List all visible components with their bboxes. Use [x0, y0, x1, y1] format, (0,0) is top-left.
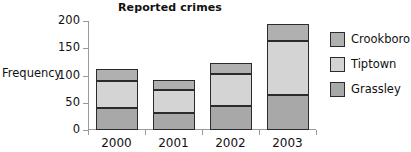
bar-segment-crookboro [96, 69, 138, 81]
x-axis-tick-label: 2001 [151, 136, 197, 150]
bar-segment-tiptown [96, 81, 138, 108]
x-axis-tick-label: 2003 [265, 136, 311, 150]
x-axis-tick [88, 130, 89, 135]
bar-stack [96, 21, 138, 130]
bar-segment-tiptown [210, 74, 252, 106]
y-axis-tick-label: 200 [50, 15, 80, 27]
x-axis-tick [259, 130, 260, 135]
bar-segment-crookboro [267, 24, 309, 41]
y-axis-tick-label: 50 [50, 97, 80, 109]
legend-item[interactable]: Crookboro [330, 30, 411, 50]
bar-segment-crookboro [210, 63, 252, 74]
plot-area [88, 21, 316, 130]
bar-segment-crookboro [153, 80, 195, 90]
legend-swatch-icon [330, 32, 345, 47]
x-axis-tick [316, 130, 317, 135]
legend-swatch-icon [330, 82, 345, 97]
y-axis-tick-label: 150 [50, 42, 80, 54]
bar-stack [153, 21, 195, 130]
bar-segment-tiptown [267, 41, 309, 95]
chart-legend: CrookboroTiptownGrassley [330, 30, 411, 105]
y-axis-tick-label: 100 [50, 70, 80, 82]
y-axis-tick-label-wrap: 200 [48, 15, 80, 27]
legend-item[interactable]: Tiptown [330, 55, 411, 75]
bar-segment-grassley [153, 113, 195, 130]
legend-item-label: Tiptown [351, 58, 396, 71]
y-axis-tick-label-wrap: 0 [48, 124, 80, 136]
y-axis-tick-label-wrap: 50 [48, 97, 80, 109]
bar-stack [267, 21, 309, 130]
x-axis-tick-label: 2002 [208, 136, 254, 150]
bar-segment-tiptown [153, 90, 195, 112]
x-axis-tick [145, 130, 146, 135]
legend-item-label: Crookboro [351, 33, 410, 46]
x-axis-tick-label: 2000 [94, 136, 140, 150]
legend-swatch-icon [330, 57, 345, 72]
chart-title: Reported crimes [0, 1, 340, 14]
stacked-bar-chart: Reported crimes Frequency 050100150200 2… [0, 0, 411, 152]
y-axis-tick-label-wrap: 100 [48, 70, 80, 82]
y-axis-tick-label: 0 [50, 124, 80, 136]
legend-item[interactable]: Grassley [330, 80, 411, 100]
legend-item-label: Grassley [351, 83, 401, 96]
y-axis-tick-label-wrap: 150 [48, 42, 80, 54]
bar-segment-grassley [210, 106, 252, 130]
x-axis-tick [202, 130, 203, 135]
bar-segment-grassley [267, 95, 309, 130]
bar-stack [210, 21, 252, 130]
bar-segment-grassley [96, 108, 138, 130]
